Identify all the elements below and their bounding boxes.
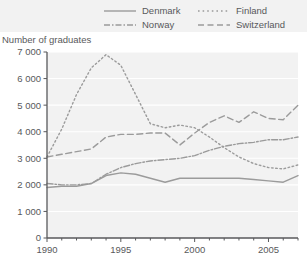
legend-swatch-switzerland	[198, 20, 230, 30]
legend-label-norway: Norway	[142, 20, 174, 30]
svg-text:2000: 2000	[184, 244, 205, 255]
svg-text:6 000: 6 000	[17, 73, 41, 84]
svg-text:1995: 1995	[110, 244, 131, 255]
svg-text:2 000: 2 000	[17, 179, 41, 190]
svg-text:3 000: 3 000	[17, 153, 41, 164]
chart-screenshot: Denmark Norway Finland Switzerland Numbe…	[0, 0, 307, 267]
plot-area: 01 0002 0003 0004 0005 0006 0007 000 199…	[0, 44, 307, 267]
svg-text:1 000: 1 000	[17, 206, 41, 217]
chart-legend: Denmark Norway Finland Switzerland	[0, 0, 307, 32]
legend-item-finland: Finland	[198, 4, 267, 17]
legend-swatch-norway	[104, 20, 136, 30]
legend-label-finland: Finland	[236, 6, 267, 16]
legend-item-norway: Norway	[104, 18, 174, 31]
legend-item-denmark: Denmark	[104, 4, 181, 17]
legend-label-denmark: Denmark	[142, 6, 181, 16]
svg-text:1990: 1990	[36, 244, 57, 255]
x-axis-tick-labels: 1990199520002005	[36, 244, 279, 255]
svg-text:0: 0	[36, 232, 41, 243]
legend-item-switzerland: Switzerland	[198, 18, 285, 31]
legend-swatch-denmark	[104, 6, 136, 16]
y-axis-tick-labels: 01 0002 0003 0004 0005 0006 0007 000	[17, 46, 41, 243]
svg-text:5 000: 5 000	[17, 100, 41, 111]
line-chart: 01 0002 0003 0004 0005 0006 0007 000 199…	[0, 44, 307, 267]
svg-text:4 000: 4 000	[17, 126, 41, 137]
svg-text:7 000: 7 000	[17, 46, 41, 57]
legend-label-switzerland: Switzerland	[236, 20, 285, 30]
legend-swatch-finland	[198, 6, 230, 16]
svg-text:2005: 2005	[258, 244, 279, 255]
